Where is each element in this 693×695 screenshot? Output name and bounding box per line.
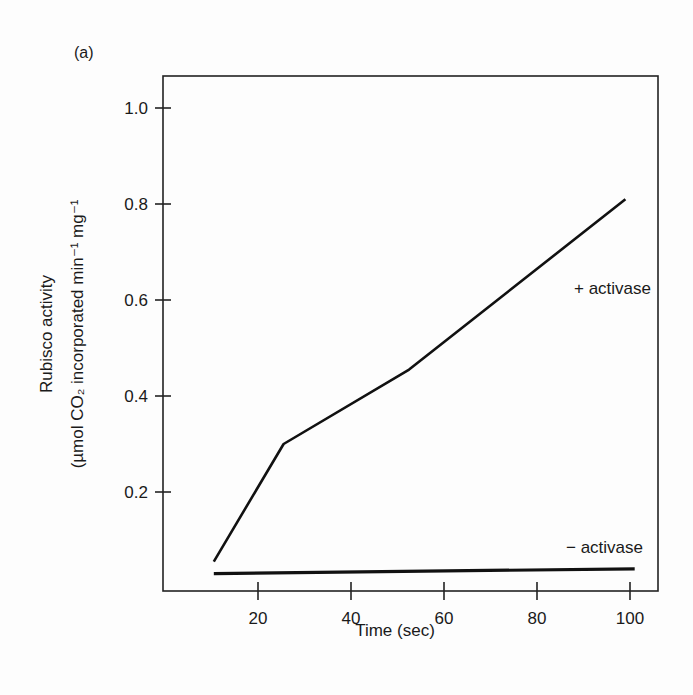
y-tick-label: 0.8 <box>124 195 148 214</box>
series-line-minus-activase <box>214 569 635 574</box>
data-series <box>214 199 635 573</box>
x-axis-ticks: 20406080100 <box>249 582 645 628</box>
x-tick-label: 100 <box>616 609 644 628</box>
series-label-minus-activase: − activase <box>566 538 643 557</box>
x-tick-label: 80 <box>528 609 547 628</box>
plot-frame <box>163 76 658 591</box>
y-axis-ticks: 0.20.40.60.81.0 <box>124 99 171 502</box>
x-tick-label: 60 <box>435 609 454 628</box>
y-tick-label: 0.6 <box>124 291 148 310</box>
series-line-plus-activase <box>214 199 626 561</box>
y-axis-title-line2: (µmol CO₂ incorporated min⁻¹ mg⁻¹ <box>68 199 87 468</box>
y-tick-label: 0.2 <box>124 483 148 502</box>
y-axis-title-line1: Rubisco activity <box>37 274 56 393</box>
y-tick-label: 1.0 <box>124 99 148 118</box>
series-label-plus-activase: + activase <box>574 279 651 298</box>
panel-label: (a) <box>74 44 94 61</box>
x-tick-label: 20 <box>249 609 268 628</box>
y-tick-label: 0.4 <box>124 387 148 406</box>
x-axis-title: Time (sec) <box>355 621 435 640</box>
line-chart: (a) 0.20.40.60.81.0 20406080100 Time (se… <box>0 0 693 695</box>
